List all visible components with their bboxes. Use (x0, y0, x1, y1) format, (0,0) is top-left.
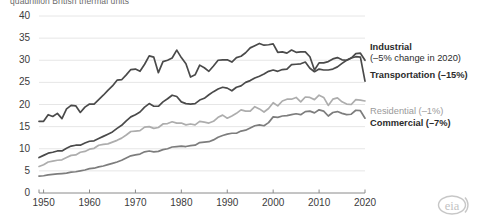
x-tick-2020: 2020 (345, 198, 385, 208)
y-tick-5: 5 (4, 166, 30, 176)
y-tick-25: 25 (4, 77, 30, 87)
x-tick-1960: 1960 (70, 198, 110, 208)
eia-logo: eia (432, 190, 476, 220)
y-tick-30: 30 (4, 55, 30, 65)
x-tick-1980: 1980 (161, 198, 201, 208)
series-label-commercial: Commercial (–7%) (370, 118, 451, 129)
series-label-transportation: Transportation (–15%) (370, 70, 468, 81)
eia-logo-text: eia (445, 199, 460, 213)
x-tick-1950: 1950 (24, 198, 64, 208)
series-label-industrial: Industrial (–5% change in 2020) (370, 42, 461, 63)
series-label-industrial-name: Industrial (370, 42, 412, 52)
y-tick-0: 0 (4, 188, 30, 198)
x-tick-2010: 2010 (299, 198, 339, 208)
series-label-residential: Residential (–1%) (370, 106, 443, 117)
y-tick-20: 20 (4, 100, 30, 110)
y-tick-40: 40 (4, 11, 30, 21)
y-tick-10: 10 (4, 144, 30, 154)
series-label-industrial-change: (–5% change in 2020) (370, 53, 461, 63)
y-tick-15: 15 (4, 122, 30, 132)
x-tick-1990: 1990 (207, 198, 247, 208)
y-tick-35: 35 (4, 33, 30, 43)
x-tick-2000: 2000 (253, 198, 293, 208)
energy-consumption-chart: quadrillion British thermal units 051015… (0, 0, 484, 222)
x-tick-1970: 1970 (115, 198, 155, 208)
